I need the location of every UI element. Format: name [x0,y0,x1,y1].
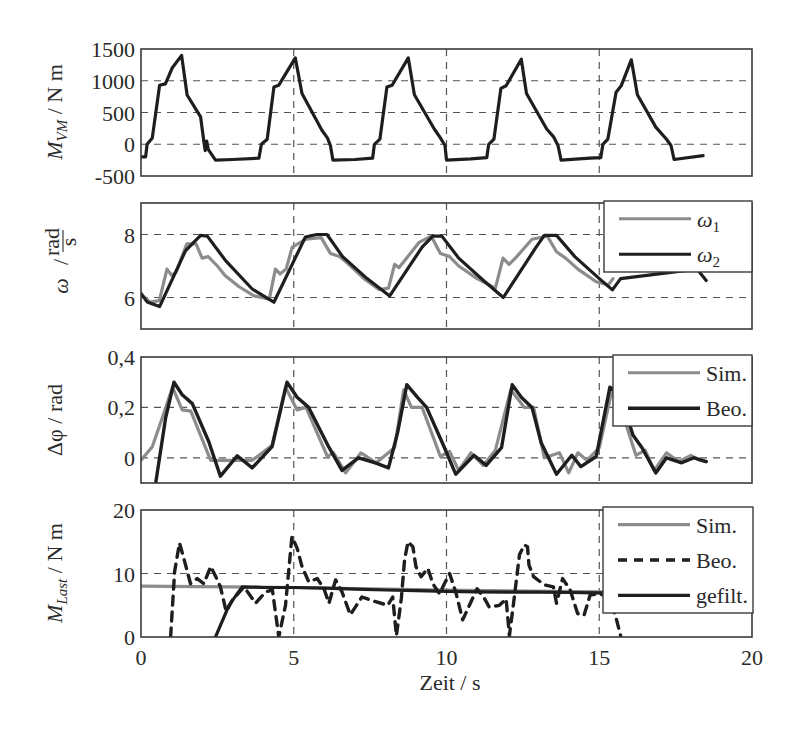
legend: ω1ω2 [604,201,752,272]
legend-label: Beo. [706,396,747,421]
legend-label: Sim. [706,361,747,386]
x-tick-labels: 05101520 [136,645,764,670]
y-tick-label: 0 [124,446,135,471]
y-tick-label: 1500 [91,37,135,62]
ylabel-main: ω [48,278,73,294]
ylabel-sub: VM [54,118,70,141]
legend: Sim.Beo. [613,355,752,426]
y-tick-label: 10 [113,562,135,587]
x-tick-label: 15 [588,645,610,670]
y-tick-label: 0 [124,625,135,650]
x-tick-label: 10 [436,645,458,670]
x-tick-label: 20 [741,645,763,670]
x-tick-label: 5 [288,645,299,670]
ylabel-frac-den: s [56,238,81,247]
ylabel-unit: / N m [42,523,67,579]
y-tick-label: 0 [124,132,135,157]
y-tick-label: 0,2 [108,395,136,420]
ylabel-main: M [42,603,67,624]
y-tick-label: 8 [124,223,135,248]
svg-text:/: / [48,258,73,265]
legend-label: Beo. [696,548,737,573]
y-tick-label: 20 [113,498,135,523]
legend-label: gefilt. [696,583,748,608]
panel-delta-phi: 00,20,4 Sim.Beo. Δφ / rad [42,345,752,483]
y-axis-label: MLast / N m [42,523,70,624]
y-axis-label: Δφ / rad [42,384,67,456]
y-tick-labels: -500050010001500 [91,37,135,189]
x-tick-label: 0 [136,645,147,670]
y-tick-label: 500 [102,101,135,126]
y-tick-label: 6 [124,286,135,311]
y-tick-labels: 00,20,4 [108,345,136,471]
y-tick-labels: 68 [124,223,135,311]
figure: -500050010001500 MVM / N m 68 ω1ω2 ω / r… [0,0,802,735]
legend: Sim.Beo.gefilt. [603,507,753,613]
y-axis-label: MVM / N m [42,64,70,161]
ylabel-sub: Last [54,578,70,606]
panel-mlast: 01020 05101520 Sim.Beo.gefilt. MLast / N… [42,498,763,670]
y-tick-label: 1000 [91,69,135,94]
y-axis-label: ω / rad s [39,228,81,294]
legend-box [604,201,752,272]
y-tick-label: 0,4 [108,345,136,370]
panel-omega: 68 ω1ω2 ω / rad s [39,201,752,329]
ylabel-unit: / N m [42,64,67,120]
series-line-1 [141,236,613,302]
ylabel-main: M [42,140,67,161]
y-tick-labels: 01020 [113,498,135,650]
x-axis-label: Zeit / s [419,670,480,695]
y-tick-label: -500 [95,164,135,189]
series-lines [141,537,621,637]
legend-label: Sim. [696,513,737,538]
panel-mvm: -500050010001500 MVM / N m [42,37,752,189]
